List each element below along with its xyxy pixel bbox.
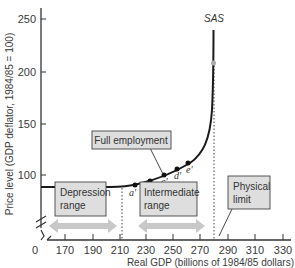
x-axis-title: Real GDP (billions of 1984/85 dollars) bbox=[127, 257, 294, 268]
x-tick-label: 0 bbox=[32, 244, 38, 256]
sas-chart: 100 150 200 250 0 170 190 210 230 250 27… bbox=[0, 0, 295, 268]
y-tick-label: 200 bbox=[18, 66, 36, 78]
y-ticks bbox=[41, 19, 46, 175]
physical-limit-pointer bbox=[219, 209, 232, 236]
x-tick-label: 270 bbox=[191, 244, 209, 256]
x-tick-label: 190 bbox=[84, 244, 102, 256]
intermediate-label-1: Intermediate bbox=[144, 187, 200, 198]
sas-marker bbox=[211, 61, 216, 66]
y-tick-label: 150 bbox=[18, 118, 36, 130]
x-tick-label: 210 bbox=[111, 244, 129, 256]
full-employment-pointer bbox=[150, 148, 163, 174]
intermediate-label-2: range bbox=[144, 200, 170, 211]
point-label-a: a' bbox=[129, 187, 137, 198]
y-tick-label: 250 bbox=[18, 13, 36, 25]
x-tick-label: 170 bbox=[56, 244, 74, 256]
depression-label-2: range bbox=[60, 200, 86, 211]
y-axis-title: Price level (GDP deflator, 1984/85 = 100… bbox=[4, 33, 15, 215]
x-tick-label: 290 bbox=[219, 244, 237, 256]
x-ticks bbox=[65, 234, 283, 240]
physical-label-2: limit bbox=[233, 194, 251, 205]
x-tick-label: 310 bbox=[246, 244, 264, 256]
depression-label-1: Depression bbox=[60, 187, 111, 198]
x-tick-label: 230 bbox=[137, 244, 155, 256]
y-tick-label: 100 bbox=[18, 169, 36, 181]
x-tick-label: 250 bbox=[164, 244, 182, 256]
point-label-e: e' bbox=[186, 164, 193, 175]
depression-range-arrow bbox=[49, 219, 117, 233]
sas-label: SAS bbox=[204, 13, 224, 24]
point-label-d: d' bbox=[174, 170, 182, 181]
intermediate-range-arrow bbox=[138, 219, 205, 233]
x-tick-label: 330 bbox=[274, 244, 292, 256]
physical-label-1: Physical bbox=[233, 181, 270, 192]
full-employment-label: Full employment bbox=[94, 135, 168, 146]
